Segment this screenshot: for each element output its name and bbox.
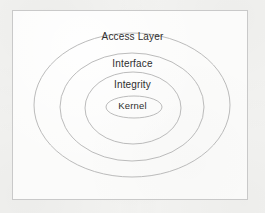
layer-label-access-layer: Access Layer bbox=[0, 31, 265, 42]
layer-label-kernel: Kernel bbox=[0, 100, 265, 111]
layer-label-integrity: Integrity bbox=[0, 79, 265, 90]
diagram-canvas: Access Layer Interface Integrity Kernel bbox=[0, 0, 265, 213]
layer-label-interface: Interface bbox=[0, 58, 265, 69]
